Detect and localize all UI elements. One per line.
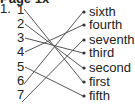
dot-first (82, 80, 85, 83)
right-item-fifth: fifth (89, 89, 110, 103)
right-item-fourth: fourth (89, 18, 122, 32)
dot-seventh (82, 38, 85, 41)
dot-second (82, 66, 85, 69)
right-item-third: third (89, 46, 114, 60)
dot-sixth (82, 10, 85, 13)
right-item-first: first (89, 75, 110, 89)
dot-fourth (82, 23, 85, 26)
match-line-3-third (25, 38, 83, 53)
dot-third (82, 51, 85, 54)
right-item-second: second (89, 61, 131, 75)
dot-fifth (82, 94, 85, 97)
